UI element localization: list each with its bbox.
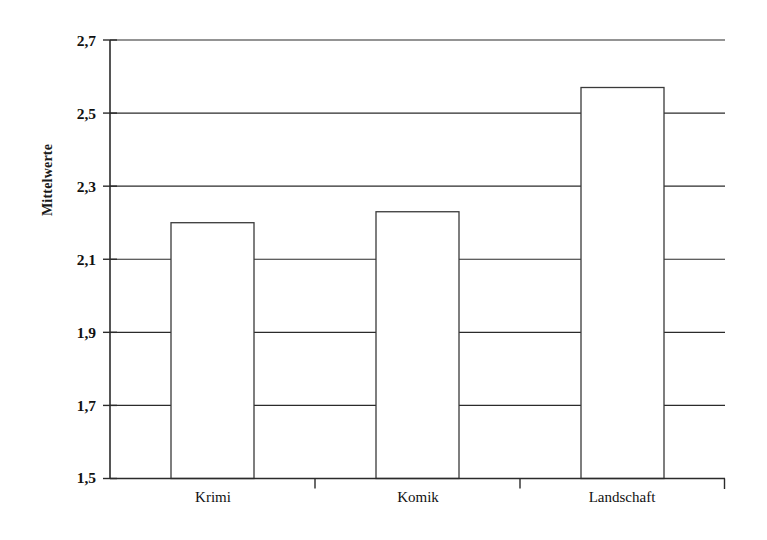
bar-chart: Mittelwerte 2,7 2,5 2,3 2,1 1,9 1,7 1,5 … (0, 0, 767, 540)
bar-landschaft (581, 88, 664, 479)
bar-krimi (171, 223, 254, 479)
bar-komik (376, 212, 459, 479)
x-tick-marks-group (315, 479, 520, 489)
bars-group (171, 88, 664, 479)
plot-area (0, 0, 767, 540)
